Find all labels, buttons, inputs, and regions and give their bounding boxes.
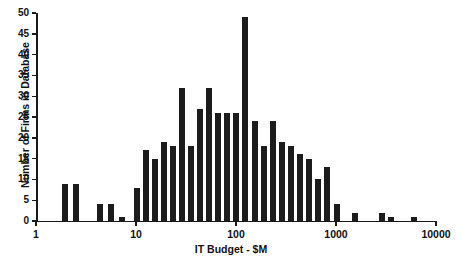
histogram-bar: [388, 217, 394, 221]
x-tick-mark: [335, 222, 337, 226]
histogram-bar: [315, 179, 321, 221]
histogram-bar: [233, 113, 239, 221]
histogram-figure: Number of Firms in Database 051015202530…: [0, 0, 462, 264]
histogram-bar: [134, 188, 140, 221]
histogram-bar: [334, 204, 340, 221]
histogram-bar: [119, 217, 125, 221]
y-tick-label: 40: [18, 48, 29, 61]
y-tick-label: 45: [18, 27, 29, 40]
histogram-bar: [297, 154, 303, 221]
histogram-bar: [242, 17, 248, 221]
histogram-bar: [161, 142, 167, 221]
x-tick-label: 1: [33, 228, 39, 240]
x-tick-label: 1000: [324, 228, 347, 240]
x-tick-label: 10: [130, 228, 142, 240]
histogram-bar: [261, 146, 267, 221]
y-tick-label: 15: [18, 152, 29, 165]
histogram-bar: [179, 88, 185, 221]
x-tick-mark: [435, 222, 437, 226]
x-tick-mark: [35, 222, 37, 226]
histogram-bar: [188, 146, 194, 221]
y-tick-label: 0: [23, 214, 29, 227]
x-tick-label: 10000: [421, 228, 450, 240]
histogram-bar: [152, 159, 158, 221]
histogram-bar: [411, 217, 417, 221]
histogram-bar: [352, 213, 358, 221]
x-tick-mark: [135, 222, 137, 226]
x-axis-title: IT Budget - $M: [0, 243, 462, 255]
histogram-bar: [143, 150, 149, 221]
histogram-bar: [62, 184, 68, 221]
histogram-bar: [288, 146, 294, 221]
histogram-bar: [279, 142, 285, 221]
histogram-bar: [270, 121, 276, 221]
x-tick-label: 100: [227, 228, 245, 240]
histogram-bars: [36, 13, 437, 221]
y-tick-label: 50: [18, 6, 29, 19]
y-tick-label: 35: [18, 68, 29, 81]
y-tick-label: 30: [18, 89, 29, 102]
y-tick-label: 10: [18, 172, 29, 185]
histogram-bar: [197, 109, 203, 221]
x-tick-mark: [235, 222, 237, 226]
histogram-bar: [224, 113, 230, 221]
histogram-bar: [97, 204, 103, 221]
histogram-bar: [108, 204, 114, 221]
histogram-bar: [379, 213, 385, 221]
y-tick-label: 25: [18, 110, 29, 123]
histogram-bar: [215, 113, 221, 221]
histogram-bar: [206, 88, 212, 221]
histogram-bar: [73, 184, 79, 221]
y-tick-label: 20: [18, 131, 29, 144]
histogram-bar: [252, 121, 258, 221]
y-tick-label: 5: [23, 193, 29, 206]
histogram-bar: [324, 167, 330, 221]
histogram-bar: [306, 159, 312, 221]
histogram-bar: [170, 146, 176, 221]
